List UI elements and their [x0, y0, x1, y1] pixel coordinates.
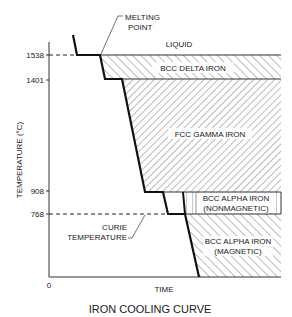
y-axis-label: TEMPERATURE (°C): [15, 121, 24, 198]
curie-label-1: CURIE: [102, 223, 127, 232]
origin-label: 0: [47, 281, 52, 290]
ytick-label-908: 908: [31, 187, 45, 196]
diagram-title: IRON COOLING CURVE: [89, 303, 212, 315]
ytick-label-768: 768: [31, 210, 45, 219]
melting-point-label-2: POINT: [128, 23, 153, 32]
curie-leader: [128, 215, 145, 238]
alpha-nonmag-label-1: BCC ALPHA IRON: [203, 194, 270, 203]
delta-iron-label: BCC DELTA IRON: [160, 64, 226, 73]
melting-point-label-1: MELTING: [125, 13, 160, 22]
x-axis-label: TIME: [154, 285, 173, 294]
gamma-iron-label: FCC GAMMA IRON: [175, 130, 246, 139]
ytick-label-1538: 1538: [26, 51, 44, 60]
melting-point-leader: [101, 16, 123, 54]
alpha-mag-label-2: (MAGNETIC): [214, 247, 262, 256]
iron-cooling-curve-diagram: 1538 1401 908 768 0 TEMPERATURE (°C) TIM…: [0, 0, 292, 317]
alpha-mag-label-1: BCC ALPHA IRON: [205, 237, 272, 246]
ytick-label-1401: 1401: [26, 76, 44, 85]
curie-label-2: TEMPERATURE: [67, 233, 127, 242]
liquid-label: LIQUID: [166, 40, 193, 49]
alpha-nonmag-label-2: (NONMAGNETIC): [203, 204, 269, 213]
